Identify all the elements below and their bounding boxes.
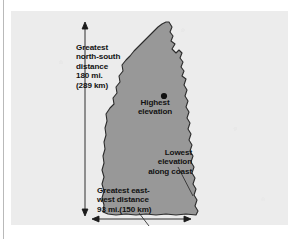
east-west-leader xyxy=(139,213,149,226)
label-north-south-distance: Greatest north-south distance 180 mi. (2… xyxy=(76,43,132,90)
east-west-arrow xyxy=(92,216,191,222)
label-east-west-distance: Greatest east- west distance 93 mi.(150 … xyxy=(97,186,167,214)
figure-root: Greatest north-south distance 180 mi. (2… xyxy=(0,0,288,239)
label-highest-elevation: Highest elevation xyxy=(131,98,179,117)
label-lowest-elevation: Lowest elevation along coast xyxy=(140,148,192,176)
